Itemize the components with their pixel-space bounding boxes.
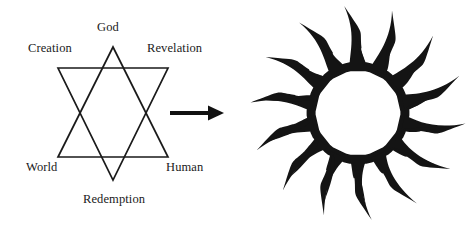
sunburst-flame-star <box>251 6 466 220</box>
sunburst-ray <box>251 93 316 111</box>
right-arrow <box>170 106 224 121</box>
hexagram-label-redemption: Redemption <box>83 192 145 206</box>
sunburst-inner-rim <box>311 67 405 159</box>
sunburst-ray <box>299 23 346 76</box>
sunburst-ray <box>283 135 327 190</box>
sunburst-ray <box>399 49 426 88</box>
sunburst-ray <box>266 57 328 91</box>
hexagram-label-revelation: Revelation <box>147 41 202 55</box>
hexagram-label-human: Human <box>166 160 203 174</box>
sunburst-ray <box>371 11 396 76</box>
sunburst-ray <box>389 35 433 90</box>
sunburst-ray <box>392 147 435 165</box>
hexagram-label-world: World <box>26 160 57 174</box>
arrow-head-icon <box>208 106 224 121</box>
hexagram-label-god: God <box>97 20 119 34</box>
sunburst-ray <box>389 135 451 169</box>
sunburst-ray <box>350 159 372 220</box>
figure-canvas: God Creation Revelation World Human Rede… <box>0 0 474 227</box>
sunburst-ray <box>371 151 417 204</box>
sunburst-ray <box>291 139 319 177</box>
hexagram-diagram <box>0 0 474 227</box>
hexagram-label-creation: Creation <box>28 41 72 55</box>
